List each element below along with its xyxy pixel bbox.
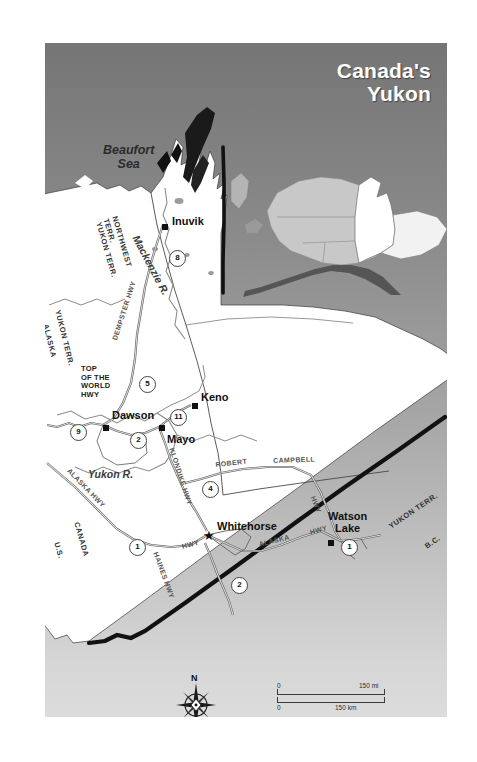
whitehorse-marker: ★ [203,529,215,542]
scale-label-mi-zero: 0 [277,682,281,689]
keno-marker [192,403,198,409]
highway-shield-5[interactable]: 5 [139,376,156,393]
yukon-river-label: Yukon R. [88,468,133,480]
map-page: Canada's Yukon BeaufortSea Yukon R. Mack… [0,0,477,762]
highway-shield-1-watson[interactable]: 1 [341,539,358,556]
scale-line-km [277,702,385,703]
scale-label-km-max: 150 km [335,704,356,711]
compass-north-label: N [191,673,198,683]
east-border-heavy-line [223,147,224,293]
inuvik-label: Inuvik [172,215,204,227]
lake-4 [208,271,214,275]
mayo-marker [159,425,165,431]
highway-shield-2-haines[interactable]: 2 [231,577,248,594]
scale-label-mi-max: 150 mi [359,682,379,689]
scale-tick-mi-right [384,689,385,694]
inuvik-marker [162,224,168,230]
highway-shield-9[interactable]: 9 [70,424,87,441]
inset-aleutians [243,265,401,297]
map-panel: Canada's Yukon BeaufortSea Yukon R. Mack… [45,43,447,717]
highway-shield-11[interactable]: 11 [170,409,187,426]
beaufort-sea-label: BeaufortSea [103,143,154,171]
scale-line-miles [277,694,385,695]
whitehorse-label: Whitehorse [217,520,277,532]
inset-locator-map [231,173,447,297]
highway-shield-1-alaska[interactable]: 1 [129,539,146,556]
dawson-marker [103,425,109,431]
lake-1 [175,198,184,204]
compass-rose: N [174,673,218,717]
keno-label: Keno [201,391,229,403]
highway-shield-8[interactable]: 8 [169,250,186,267]
dawson-label: Dawson [112,409,154,421]
scale-label-km-zero: 0 [277,704,281,711]
page-title: Canada's Yukon [337,59,431,105]
mayo-label: Mayo [167,433,195,445]
watson-lake-marker [328,540,334,546]
top-of-the-world-hwy-label: TOPOF THEWORLDHWY [81,365,131,399]
inset-island-seward [231,173,249,209]
highway-shield-2-dawson[interactable]: 2 [130,432,147,449]
scale-bar: 0 150 mi 0 150 km [277,683,397,717]
inset-island-small [245,219,263,233]
watson-lake-label: WatsonLake [328,510,367,534]
highway-shield-4[interactable]: 4 [202,481,219,498]
scale-tick-km-right [384,697,385,702]
campbell-hwy-label: CAMPBELL [273,456,315,464]
